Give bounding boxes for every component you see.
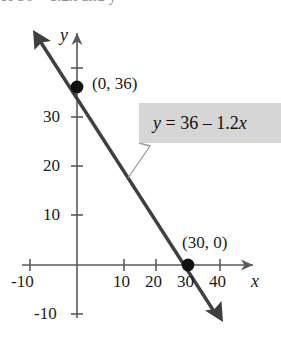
y-axis-label: y	[60, 26, 68, 44]
point-0-36-marker	[71, 81, 84, 94]
equation-operator: –	[203, 113, 212, 133]
y-tick-label-neg10: -10	[34, 305, 57, 322]
point-label-0-36: (0, 36)	[92, 75, 137, 92]
line-graph-figure: of 36 – 1.2x and y	[0, 0, 281, 351]
y-tick-label-30: 30	[43, 108, 60, 125]
point-30-0-marker	[182, 259, 195, 272]
x-tick-label-10: 10	[113, 273, 130, 290]
equation-relation: =	[166, 113, 176, 133]
equation-coefficient: 1.2	[216, 113, 239, 133]
equation-variable: x	[239, 113, 247, 133]
callout-leader-line	[128, 143, 150, 178]
equation-lhs: y	[153, 113, 161, 133]
y-tick-label-10: 10	[43, 206, 60, 223]
y-tick-label-20: 20	[43, 157, 60, 174]
x-axis-label: x	[251, 272, 259, 290]
coordinate-plane	[0, 0, 281, 351]
x-tick-label-20: 20	[145, 273, 162, 290]
x-tick-label-40: 40	[209, 273, 226, 290]
equation-intercept: 36	[180, 113, 198, 133]
equation-callout-text: y = 36 – 1.2x	[153, 113, 247, 133]
x-tick-label-30: 30	[177, 273, 194, 290]
point-label-30-0: (30, 0)	[182, 234, 227, 251]
x-tick-label-neg10: -10	[11, 273, 34, 290]
